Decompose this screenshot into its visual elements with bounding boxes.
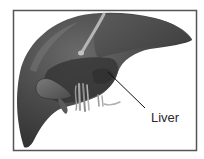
ligament-tip — [78, 51, 84, 56]
liver-diagram: Liver — [0, 0, 204, 159]
liver-label: Liver — [151, 110, 180, 125]
